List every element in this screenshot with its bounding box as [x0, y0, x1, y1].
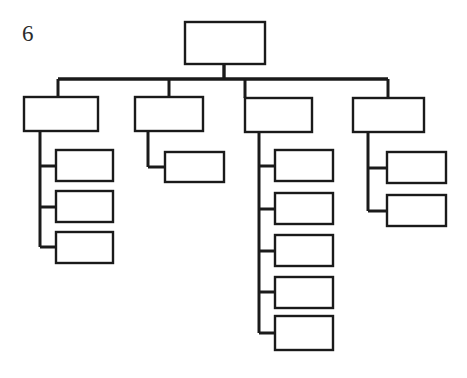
org-node-b3c1[interactable]: [275, 150, 333, 181]
node-box-b1c1[interactable]: [56, 150, 113, 181]
org-node-root[interactable]: [185, 22, 265, 64]
org-node-b2c1[interactable]: [165, 152, 224, 182]
org-node-b4c1[interactable]: [387, 152, 446, 183]
org-node-b3c4[interactable]: [275, 277, 333, 308]
node-box-layer: [24, 22, 446, 350]
node-box-b1[interactable]: [24, 97, 98, 131]
org-node-b2[interactable]: [135, 97, 203, 131]
org-node-b1c3[interactable]: [56, 232, 113, 263]
org-chart-canvas: [0, 0, 467, 378]
org-node-b3c5[interactable]: [275, 316, 333, 350]
node-box-b3c2[interactable]: [275, 193, 333, 224]
node-box-root[interactable]: [185, 22, 265, 64]
node-box-b4c1[interactable]: [387, 152, 446, 183]
node-box-b2[interactable]: [135, 97, 203, 131]
node-box-b2c1[interactable]: [165, 152, 224, 182]
node-box-b3c3[interactable]: [275, 235, 333, 266]
org-chart-diagram: 6: [0, 0, 467, 378]
node-box-b3[interactable]: [245, 98, 312, 132]
org-node-b1[interactable]: [24, 97, 98, 131]
org-node-b4c2[interactable]: [387, 195, 446, 226]
node-box-b4[interactable]: [353, 98, 424, 132]
org-node-b3c3[interactable]: [275, 235, 333, 266]
node-box-b3c5[interactable]: [275, 316, 333, 350]
org-node-b1c1[interactable]: [56, 150, 113, 181]
org-node-b1c2[interactable]: [56, 191, 113, 222]
node-box-b1c3[interactable]: [56, 232, 113, 263]
org-node-b3c2[interactable]: [275, 193, 333, 224]
org-node-b4[interactable]: [353, 98, 424, 132]
node-box-b4c2[interactable]: [387, 195, 446, 226]
org-node-b3[interactable]: [245, 98, 312, 132]
node-box-b1c2[interactable]: [56, 191, 113, 222]
node-box-b3c1[interactable]: [275, 150, 333, 181]
node-box-b3c4[interactable]: [275, 277, 333, 308]
